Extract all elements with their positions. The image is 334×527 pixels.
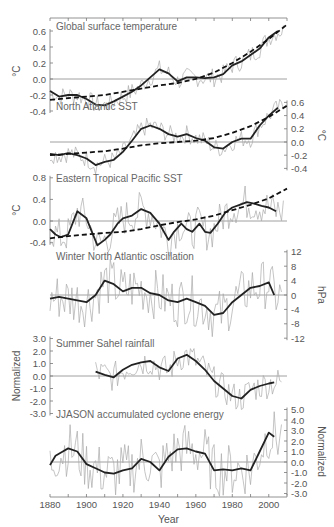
- climate-multi-panel-chart: 0.60.40.20.0-0.2-0.4°CGlobal surface tem…: [0, 0, 334, 527]
- x-tick-label: 1980: [222, 499, 243, 510]
- y-tick-label: 0: [291, 290, 296, 301]
- y-tick-label: 8: [291, 261, 296, 272]
- y-tick-label: 0.4: [33, 42, 46, 53]
- smoothed-series-line: [50, 31, 278, 105]
- y-tick-label: 0.2: [291, 123, 304, 134]
- y-tick-label: 1.0: [33, 358, 46, 369]
- y-tick-label: 0.0: [291, 457, 304, 468]
- panel-title: Winter North Atlantic oscillation: [56, 251, 194, 262]
- y-axis-unit-label: °C: [11, 65, 22, 76]
- y-tick-label: 2.0: [291, 436, 304, 447]
- x-tick-label: 1900: [76, 499, 97, 510]
- y-tick-label: 0.4: [33, 194, 46, 205]
- y-tick-label: 3.0: [33, 333, 46, 344]
- x-axis-title: Year: [158, 513, 180, 525]
- y-tick-label: -0.4: [30, 237, 46, 248]
- y-tick-label: 4: [291, 275, 296, 286]
- y-tick-label: 0.2: [33, 58, 46, 69]
- y-tick-label: -0.4: [291, 163, 307, 174]
- y-axis-unit-label: Normalized: [11, 351, 22, 402]
- panel-title: Summer Sahel rainfall: [56, 338, 154, 349]
- y-tick-label: 0.0: [291, 137, 304, 148]
- y-tick-label: 3.0: [291, 425, 304, 436]
- annual-series-line: [50, 412, 282, 497]
- y-tick-label: -1.0: [30, 383, 46, 394]
- y-tick-label: 0.0: [33, 216, 46, 227]
- y-tick-label: 0.4: [291, 110, 304, 121]
- y-axis-unit-label: hPa: [316, 286, 327, 304]
- panel-title: North Atlantic SST: [56, 101, 138, 112]
- y-tick-label: -0.2: [30, 90, 46, 101]
- y-tick-label: -3.0: [291, 488, 307, 499]
- y-tick-label: -3.0: [30, 408, 46, 419]
- y-tick-label: 0.0: [33, 74, 46, 85]
- y-tick-label: -12: [291, 333, 305, 344]
- x-tick-label: 1920: [112, 499, 133, 510]
- panel-title: Eastern Tropical Pacific SST: [56, 173, 183, 184]
- y-tick-label: -2.0: [291, 478, 307, 489]
- x-tick-label: 2000: [258, 499, 279, 510]
- smoothed-series-line: [96, 355, 275, 399]
- y-tick-label: 0.6: [33, 26, 46, 37]
- panel-title: JJASON accumulated cyclone energy: [56, 409, 224, 420]
- trend-dashed-line: [50, 189, 287, 239]
- x-tick-label: 1880: [39, 499, 60, 510]
- smoothed-series-line: [50, 108, 278, 165]
- y-tick-label: -0.4: [30, 106, 46, 117]
- y-tick-label: 4.0: [291, 415, 304, 426]
- y-axis-unit-label: °C: [11, 205, 22, 216]
- y-tick-label: -8: [291, 318, 299, 329]
- trend-dashed-line: [50, 106, 287, 156]
- y-tick-label: -0.2: [291, 150, 307, 161]
- y-tick-label: 5.0: [291, 404, 304, 415]
- y-tick-label: 1.0: [291, 446, 304, 457]
- panel-title: Global surface temperature: [56, 21, 178, 32]
- annual-series-line: [96, 349, 282, 410]
- x-tick-label: 1960: [185, 499, 206, 510]
- y-axis-unit-label: °C: [316, 130, 327, 141]
- y-tick-label: -4: [291, 304, 299, 315]
- y-tick-label: 0.8: [33, 172, 46, 183]
- y-tick-label: 0.6: [291, 97, 304, 108]
- trend-dashed-line: [50, 25, 287, 100]
- y-axis-unit-label: Normalized: [316, 426, 327, 477]
- x-tick-label: 1940: [149, 499, 170, 510]
- y-tick-label: -1.0: [291, 467, 307, 478]
- y-tick-label: 12: [291, 246, 302, 257]
- y-tick-label: 0.0: [33, 371, 46, 382]
- y-tick-label: -2.0: [30, 396, 46, 407]
- y-tick-label: 2.0: [33, 346, 46, 357]
- chart-canvas: 0.60.40.20.0-0.2-0.4°CGlobal surface tem…: [0, 0, 334, 527]
